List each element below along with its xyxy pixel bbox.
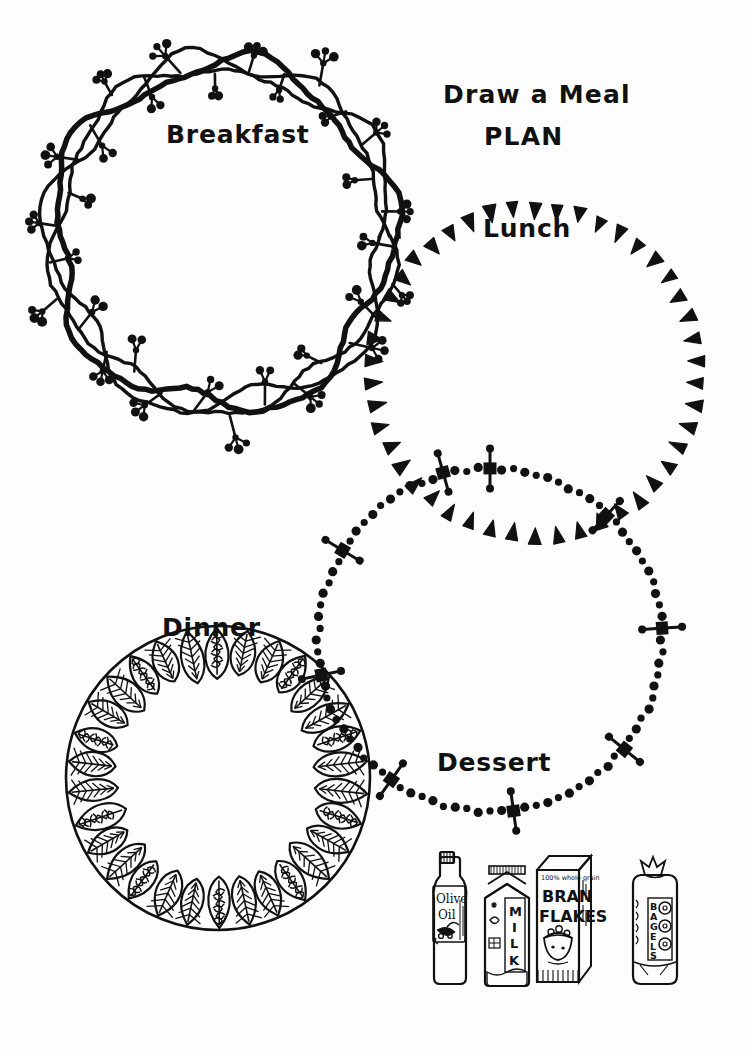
worksheet-page: Olive Oil M I L [0,0,751,1054]
page-title-line-1: Draw a Meal [443,80,631,109]
circle-label-breakfast: Breakfast [166,120,310,149]
worksheet-artwork: Olive Oil M I L [0,0,751,1054]
circle-label-lunch: Lunch [483,214,571,243]
milk-letter-3: K [509,953,520,968]
milk-letter-1: I [512,920,517,935]
bran-label-line1: BRAN [542,887,592,906]
page-title-line-2: PLAN [484,122,563,151]
bran-tagline: 100% whole grain [541,874,600,882]
milk-letter-0: M [509,904,522,919]
olive-oil-label-line2: Oil [438,908,456,922]
olive-oil-label-line1: Olive [436,892,467,906]
bran-label-line2: FLAKES [539,907,607,926]
circle-label-dessert: Dessert [437,748,551,777]
page-background [0,0,751,1054]
circle-label-dinner: Dinner [162,613,261,642]
milk-letter-2: L [510,936,518,951]
bagels-letter-5: S [650,950,657,961]
